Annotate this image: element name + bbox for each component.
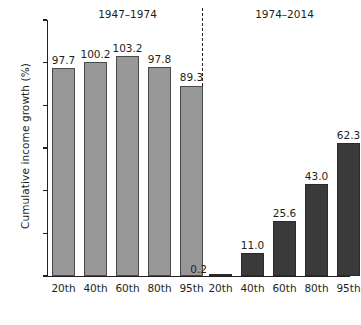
bar-1947-1974-95th <box>180 86 203 277</box>
y-tick-mark <box>43 190 48 191</box>
bar-value-label: 103.2 <box>106 43 150 54</box>
bar-value-label: 97.8 <box>138 54 182 65</box>
y-tick-mark <box>43 233 48 234</box>
panel-title-1974-2014: 1974–2014 <box>215 9 355 20</box>
bar-1947-1974-60th <box>116 56 139 276</box>
y-tick-mark <box>43 147 48 148</box>
plot-area: 020406080100120 97.7100.2103.297.889.30.… <box>47 20 350 276</box>
y-tick-mark <box>43 19 48 20</box>
bar-1974-2014-80th <box>305 184 328 276</box>
bar-chart: Cumulative income growth (%) 1947–1974 1… <box>0 0 361 325</box>
y-axis-label: Cumulative income growth (%) <box>19 26 31 266</box>
bar-value-label: 43.0 <box>295 171 339 182</box>
x-axis-line <box>47 276 350 277</box>
bar-1947-1974-20th <box>52 68 75 276</box>
bar-value-label: 11.0 <box>231 240 275 251</box>
y-tick-mark <box>43 105 48 106</box>
bar-value-label: 62.3 <box>327 130 361 141</box>
bar-value-label: 0.2 <box>175 264 207 275</box>
bar-value-label: 89.3 <box>170 72 214 83</box>
panel-title-1947-1974: 1947–1974 <box>58 9 198 20</box>
bar-1947-1974-40th <box>84 62 107 276</box>
bar-1974-2014-60th <box>273 221 296 276</box>
bar-value-label: 25.6 <box>263 208 307 219</box>
x-tick-label: 95th <box>327 283 361 294</box>
bar-1947-1974-80th <box>148 67 171 276</box>
bar-1974-2014-20th <box>209 274 232 276</box>
y-tick-mark <box>43 275 48 276</box>
bar-1974-2014-40th <box>241 253 264 276</box>
bar-1974-2014-95th <box>337 143 360 276</box>
